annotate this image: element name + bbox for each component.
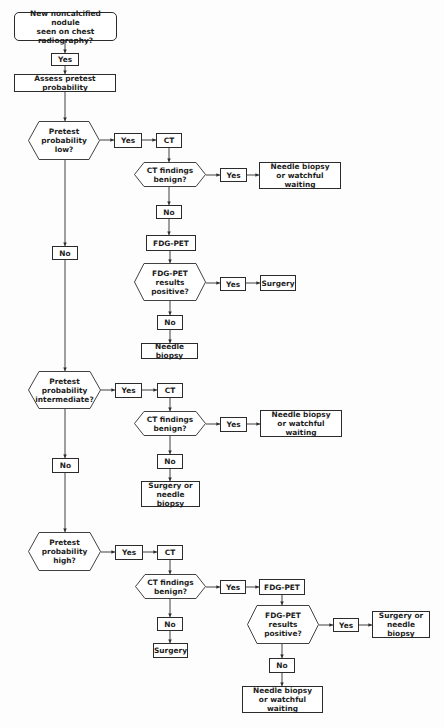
intermediate-ct-benign-decision: CT findings benign? [134, 411, 206, 436]
start-question-box: New noncalcified nodule seen on chest ra… [14, 12, 117, 41]
high-pet-no-outcome: Needle biopsy or watchful waiting [242, 686, 323, 713]
intermediate-ct-benign-label: CT findings benign? [147, 415, 194, 433]
high-pet-no-label: No [269, 658, 295, 673]
high-pet-positive-label: FDG-PET results positive? [264, 611, 301, 638]
low-pet-no-label: No [157, 315, 183, 330]
low-pet-no-outcome: Needle biopsy [141, 343, 198, 359]
high-ct-box: CT [157, 545, 183, 560]
low-pet-yes-label: Yes [220, 277, 246, 291]
high-pet-box: FDG-PET [259, 579, 305, 595]
low-pet-box: FDG-PET [146, 235, 196, 251]
low-ct-yes-outcome: Needle biopsy or watchful waiting [259, 162, 341, 189]
low-pet-positive-label: FDG-PET results positive? [151, 269, 188, 296]
high-pet-positive-decision: FDG-PET results positive? [247, 605, 319, 644]
intermediate-probability-decision: Pretest probability intermediate? [28, 371, 101, 409]
low-ct-box: CT [156, 133, 182, 148]
intermediate-no-label: No [52, 458, 79, 473]
low-pet-yes-outcome: Surgery [260, 275, 296, 291]
high-yes-label: Yes [115, 545, 143, 560]
intermediate-ct-box: CT [157, 383, 183, 398]
high-probability-label: Pretest probability high? [42, 538, 88, 565]
high-probability-decision: Pretest probability high? [28, 532, 101, 571]
intermediate-ct-no-outcome: Surgery or needle biopsy [141, 481, 200, 507]
high-ct-no-outcome: Surgery [153, 643, 188, 658]
low-no-label: No [52, 246, 78, 260]
high-pet-yes-label: Yes [333, 618, 359, 632]
high-ct-benign-label: CT findings benign? [147, 578, 194, 596]
intermediate-probability-label: Pretest probability intermediate? [35, 377, 93, 404]
high-pet-yes-outcome: Surgery or needle biopsy [372, 611, 430, 638]
low-ct-benign-label: CT findings benign? [147, 166, 194, 184]
low-ct-benign-decision: CT findings benign? [134, 162, 206, 187]
start-yes-label: Yes [51, 53, 79, 66]
intermediate-ct-yes-outcome: Needle biopsy or watchful waiting [260, 410, 342, 437]
intermediate-yes-label: Yes [115, 383, 142, 398]
high-ct-no-label: No [157, 617, 183, 631]
high-ct-yes-label: Yes [220, 580, 246, 594]
low-probability-decision: Pretest probability low? [28, 121, 100, 160]
low-probability-label: Pretest probability low? [41, 127, 87, 154]
high-ct-benign-decision: CT findings benign? [135, 574, 206, 599]
low-ct-no-label: No [156, 205, 182, 219]
intermediate-ct-no-label: No [157, 454, 183, 469]
assess-probability-box: Assess pretest probability [14, 74, 116, 92]
low-ct-yes-label: Yes [220, 168, 247, 182]
low-pet-positive-decision: FDG-PET results positive? [134, 263, 206, 301]
intermediate-ct-yes-label: Yes [220, 417, 247, 432]
low-yes-label: Yes [114, 133, 142, 148]
flowchart-canvas: New noncalcified nodule seen on chest ra… [0, 0, 444, 728]
